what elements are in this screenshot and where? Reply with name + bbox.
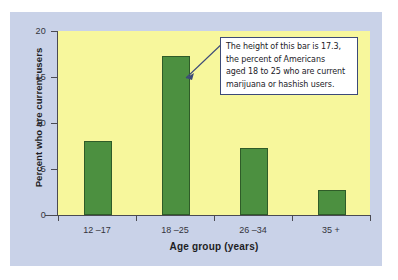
- bar-26-34: [240, 148, 268, 215]
- x-tick-label-35-plus: 35 +: [301, 225, 361, 235]
- x-tick-label-18-25: 18 –25: [145, 225, 205, 235]
- x-tick-2: [136, 215, 137, 221]
- x-tick-label-26-34: 26 –34: [223, 225, 283, 235]
- x-axis-title: Age group (years): [58, 241, 370, 252]
- y-tick-20: [51, 31, 58, 32]
- bar-height-callout: The height of this bar is 17.3, the perc…: [220, 37, 358, 95]
- x-tick-1: [58, 215, 59, 221]
- y-tick-label-0: 0: [41, 211, 46, 220]
- y-tick-0: [51, 215, 58, 216]
- y-tick-15: [51, 77, 58, 78]
- callout-line-2: the percent of Americans: [226, 54, 353, 67]
- bar-12-17: [84, 141, 112, 215]
- callout-line-4: marijuana or hashish users.: [226, 79, 353, 92]
- bar-35-plus: [318, 190, 346, 215]
- x-axis-line: [45, 215, 371, 216]
- callout-line-1: The height of this bar is 17.3,: [226, 41, 353, 54]
- x-tick-5: [370, 215, 371, 221]
- x-tick-3: [214, 215, 215, 221]
- y-axis-title: Percent who are current users: [33, 33, 44, 203]
- y-tick-10: [51, 123, 58, 124]
- x-tick-4: [292, 215, 293, 221]
- callout-line-3: aged 18 to 25 who are current: [226, 66, 353, 79]
- x-tick-label-12-17: 12 –17: [67, 225, 127, 235]
- y-tick-5: [51, 169, 58, 170]
- chart-figure: 0 5 10 15 20 12 –17 18 –25 26 –34 35 + T…: [10, 12, 382, 266]
